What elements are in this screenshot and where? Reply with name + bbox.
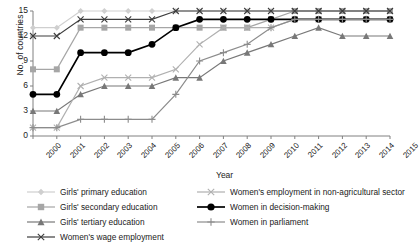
legend-column-left: Girls' primary educationGirls' secondary… (26, 184, 164, 244)
legend-marker-diamond-icon (26, 185, 56, 199)
legend-marker-triangle-icon (26, 215, 56, 229)
legend-item[interactable]: Girls' tertiary education (26, 214, 164, 229)
legend-label: Women in parliament (230, 217, 308, 227)
legend-label: Girls' tertiary education (60, 217, 145, 227)
series-1 (30, 8, 393, 72)
legend-item[interactable]: Girls' secondary education (26, 199, 164, 214)
legend-label: Girls' primary education (60, 187, 147, 197)
legend-label: Women's wage employment (60, 232, 164, 242)
legend-marker-square-icon (26, 200, 56, 214)
legend-label: Girls' secondary education (60, 202, 158, 212)
legend-item[interactable]: Women's wage employment (26, 229, 164, 244)
plot-area (0, 0, 396, 180)
legend-item[interactable]: Women's employment in non-agricultural s… (196, 184, 405, 199)
legend-marker-cross-icon (196, 185, 226, 199)
legend-item[interactable]: Women in decision-making (196, 199, 405, 214)
series-4 (30, 16, 393, 130)
legend-marker-cross-icon (26, 230, 56, 244)
legend-marker-plus-icon (196, 215, 226, 229)
legend-item[interactable]: Women in parliament (196, 214, 405, 229)
legend-label: Women in decision-making (230, 202, 329, 212)
chart-legend: Girls' primary educationGirls' secondary… (0, 184, 396, 245)
series-2 (30, 24, 394, 114)
x-tick-2015: 2015 (401, 141, 420, 160)
legend-label: Women's employment in non-agricultural s… (230, 187, 405, 197)
series-6 (30, 16, 394, 131)
legend-item[interactable]: Girls' primary education (26, 184, 164, 199)
legend-column-right: Women's employment in non-agricultural s… (196, 184, 405, 229)
legend-marker-circle-icon (196, 200, 226, 214)
